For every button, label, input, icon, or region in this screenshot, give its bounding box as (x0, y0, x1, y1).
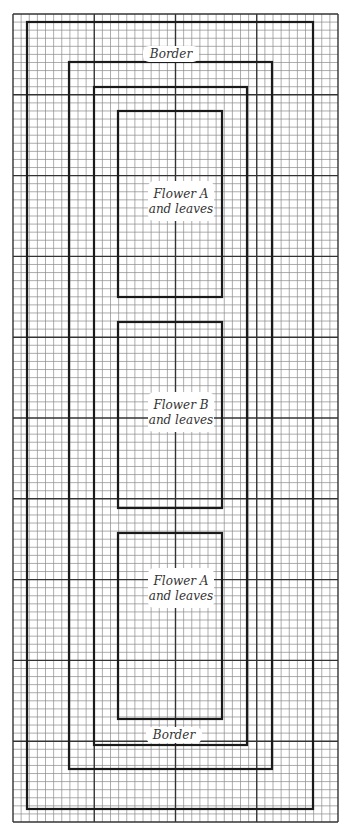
label-border-top: Border (143, 46, 199, 62)
label-text: and leaves (149, 589, 214, 603)
label-flower-a-bottom: Flower Aand leaves (148, 568, 214, 608)
label-text: Border (149, 47, 194, 61)
label-text: and leaves (149, 202, 214, 216)
label-text: Flower B (152, 398, 208, 412)
panel-flower-a-bottom (118, 533, 222, 719)
label-flower-b: Flower Band leaves (148, 392, 214, 432)
section-labels: BorderFlower Aand leavesFlower Band leav… (143, 46, 214, 743)
label-text: Flower A (153, 187, 209, 201)
chart-diagram: BorderFlower Aand leavesFlower Band leav… (0, 0, 351, 834)
label-text: Border (152, 728, 197, 742)
label-border-bottom: Border (146, 727, 202, 743)
label-text: and leaves (149, 413, 214, 427)
label-text: Flower A (153, 574, 209, 588)
label-flower-a-top: Flower Aand leaves (148, 181, 214, 221)
